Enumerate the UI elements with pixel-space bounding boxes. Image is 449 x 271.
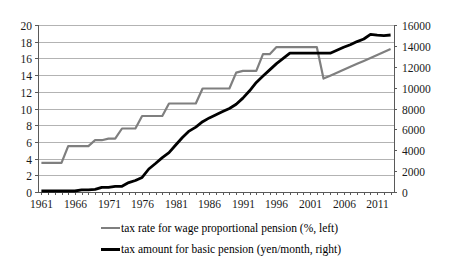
x-axis-label: 1971 xyxy=(98,198,121,210)
left-axis-label: 10 xyxy=(21,104,33,116)
left-axis-label: 0 xyxy=(26,187,32,199)
left-axis-label: 8 xyxy=(26,120,32,132)
x-axis-label: 1996 xyxy=(265,198,288,210)
legend-label-tax-rate: tax rate for wage proportional pension (… xyxy=(121,221,338,235)
tax-amount-line xyxy=(41,34,390,191)
right-axis-label: 2000 xyxy=(402,166,425,178)
tax-rate-line-marker xyxy=(101,227,120,229)
right-axis-label: 0 xyxy=(402,187,408,199)
right-axis-label: 16000 xyxy=(402,20,431,32)
right-axis-label: 10000 xyxy=(402,83,431,95)
pension-chart: 0246810121416182002000400060008000100001… xyxy=(0,0,449,271)
x-axis-label: 2006 xyxy=(333,198,356,210)
right-axis-label: 4000 xyxy=(402,145,425,157)
legend-label-tax-amount: tax amount for basic pension (yen/month,… xyxy=(121,242,341,256)
x-axis-label: 1966 xyxy=(64,198,87,210)
legend: tax rate for wage proportional pension (… xyxy=(101,221,341,256)
left-axis-label: 16 xyxy=(21,53,33,65)
legend-item-tax-rate: tax rate for wage proportional pension (… xyxy=(101,221,341,235)
left-axis-label: 2 xyxy=(26,170,32,182)
x-axis-label: 2011 xyxy=(366,198,389,210)
x-axis-label: 1986 xyxy=(198,198,221,210)
legend-item-tax-amount: tax amount for basic pension (yen/month,… xyxy=(101,242,341,256)
x-axis-label: 1991 xyxy=(232,198,255,210)
x-axis-label: 1976 xyxy=(131,198,154,210)
tax-rate-line xyxy=(41,47,390,163)
left-axis-label: 14 xyxy=(21,70,33,82)
right-axis-label: 8000 xyxy=(402,104,425,116)
left-axis-label: 18 xyxy=(21,37,33,49)
x-axis-label: 1981 xyxy=(165,198,188,210)
left-axis-label: 20 xyxy=(21,20,33,32)
left-axis-label: 6 xyxy=(26,137,32,149)
x-axis-label: 2001 xyxy=(299,198,322,210)
left-axis-label: 12 xyxy=(21,87,33,99)
left-axis-label: 4 xyxy=(26,154,32,166)
right-axis-label: 14000 xyxy=(402,41,431,53)
plot-area: 0246810121416182002000400060008000100001… xyxy=(0,0,449,220)
right-axis-label: 6000 xyxy=(402,124,425,136)
tax-amount-line-marker xyxy=(101,248,120,251)
x-axis-label: 1961 xyxy=(30,198,53,210)
right-axis-label: 12000 xyxy=(402,62,431,74)
